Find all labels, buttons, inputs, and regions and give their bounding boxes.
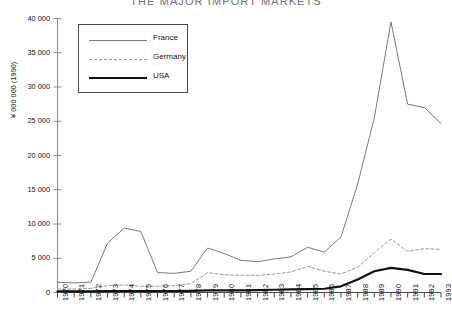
- x-axis-tick-label: 1970: [61, 283, 70, 300]
- x-axis-tick-label: 1980: [227, 283, 236, 300]
- x-axis-tick-label: 1977: [177, 283, 186, 300]
- series-line-germany: [58, 239, 442, 289]
- x-axis-tick-label: 1976: [161, 283, 170, 300]
- x-axis-tick-label: 1973: [111, 283, 120, 300]
- chart-legend: France Germany USA: [78, 24, 188, 93]
- y-axis-tick-label: 20 000: [4, 152, 50, 160]
- y-axis-tick-label: 10 000: [4, 220, 50, 228]
- x-axis-tick-label: 1986: [327, 283, 336, 300]
- y-axis-tick-label: 25 000: [4, 117, 50, 125]
- x-axis-tick-label: 1974: [127, 283, 136, 300]
- y-axis-tick-label: 35 000: [4, 49, 50, 57]
- y-axis-tick-label: 40 000: [4, 15, 50, 23]
- legend-item-france: France: [79, 31, 189, 49]
- x-axis-tick-label: 1982: [261, 283, 270, 300]
- legend-item-usa: USA: [79, 69, 189, 87]
- legend-swatch-usa: [89, 77, 147, 79]
- x-axis-tick-label: 1992: [427, 283, 436, 300]
- x-axis-tick-label: 1985: [311, 283, 320, 300]
- x-axis-tick-label: 1991: [411, 283, 420, 300]
- x-axis-tick-label: 1978: [194, 283, 203, 300]
- line-chart: THE MAJOR IMPORT MARKETS ¥ 000 000 (1990…: [0, 0, 452, 334]
- x-axis-tick-label: 1993: [444, 283, 452, 300]
- x-axis-tick-label: 1989: [377, 283, 386, 300]
- x-axis-tick-label: 1987: [344, 283, 353, 300]
- legend-swatch-germany: [89, 59, 147, 60]
- x-axis-tick-label: 1975: [144, 283, 153, 300]
- y-axis-tick-label: 0: [4, 289, 50, 297]
- legend-label-germany: Germany: [153, 52, 186, 61]
- legend-label-usa: USA: [153, 71, 169, 80]
- legend-swatch-france: [89, 40, 147, 41]
- y-axis-tick-label: 5 000: [4, 254, 50, 262]
- x-axis-tick-label: 1990: [394, 283, 403, 300]
- x-axis-tick-label: 1984: [294, 283, 303, 300]
- y-axis-tick-label: 30 000: [4, 83, 50, 91]
- x-axis-tick-label: 1979: [211, 283, 220, 300]
- x-axis-tick-label: 1988: [361, 283, 370, 300]
- legend-item-germany: Germany: [79, 50, 189, 68]
- x-axis-tick-label: 1972: [94, 283, 103, 300]
- legend-label-france: France: [153, 33, 178, 42]
- x-axis-tick-label: 1981: [244, 283, 253, 300]
- x-axis-tick-label: 1971: [77, 283, 86, 300]
- y-axis-tick-label: 15 000: [4, 186, 50, 194]
- x-axis-tick-label: 1983: [277, 283, 286, 300]
